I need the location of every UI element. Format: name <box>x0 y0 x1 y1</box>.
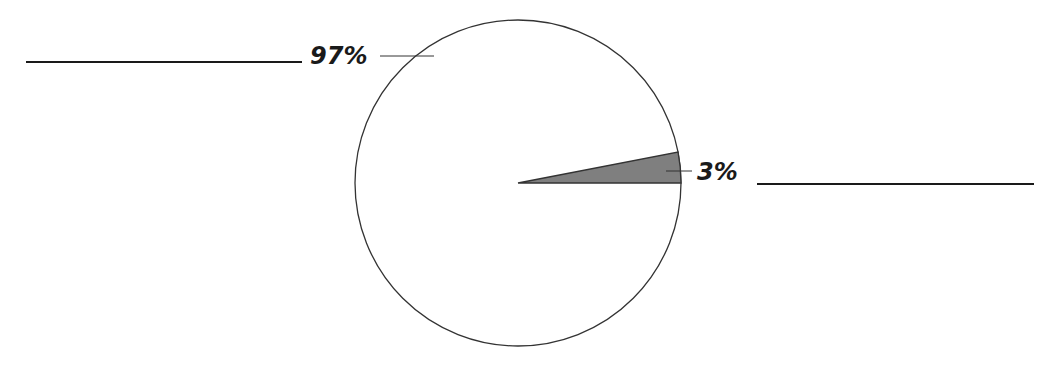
label-3-percent: 3% <box>697 160 738 184</box>
blank-label-line-right <box>757 183 1034 185</box>
pie-chart <box>0 0 1050 373</box>
blank-label-line-left <box>26 61 302 63</box>
label-97-percent: 97% <box>310 44 367 68</box>
